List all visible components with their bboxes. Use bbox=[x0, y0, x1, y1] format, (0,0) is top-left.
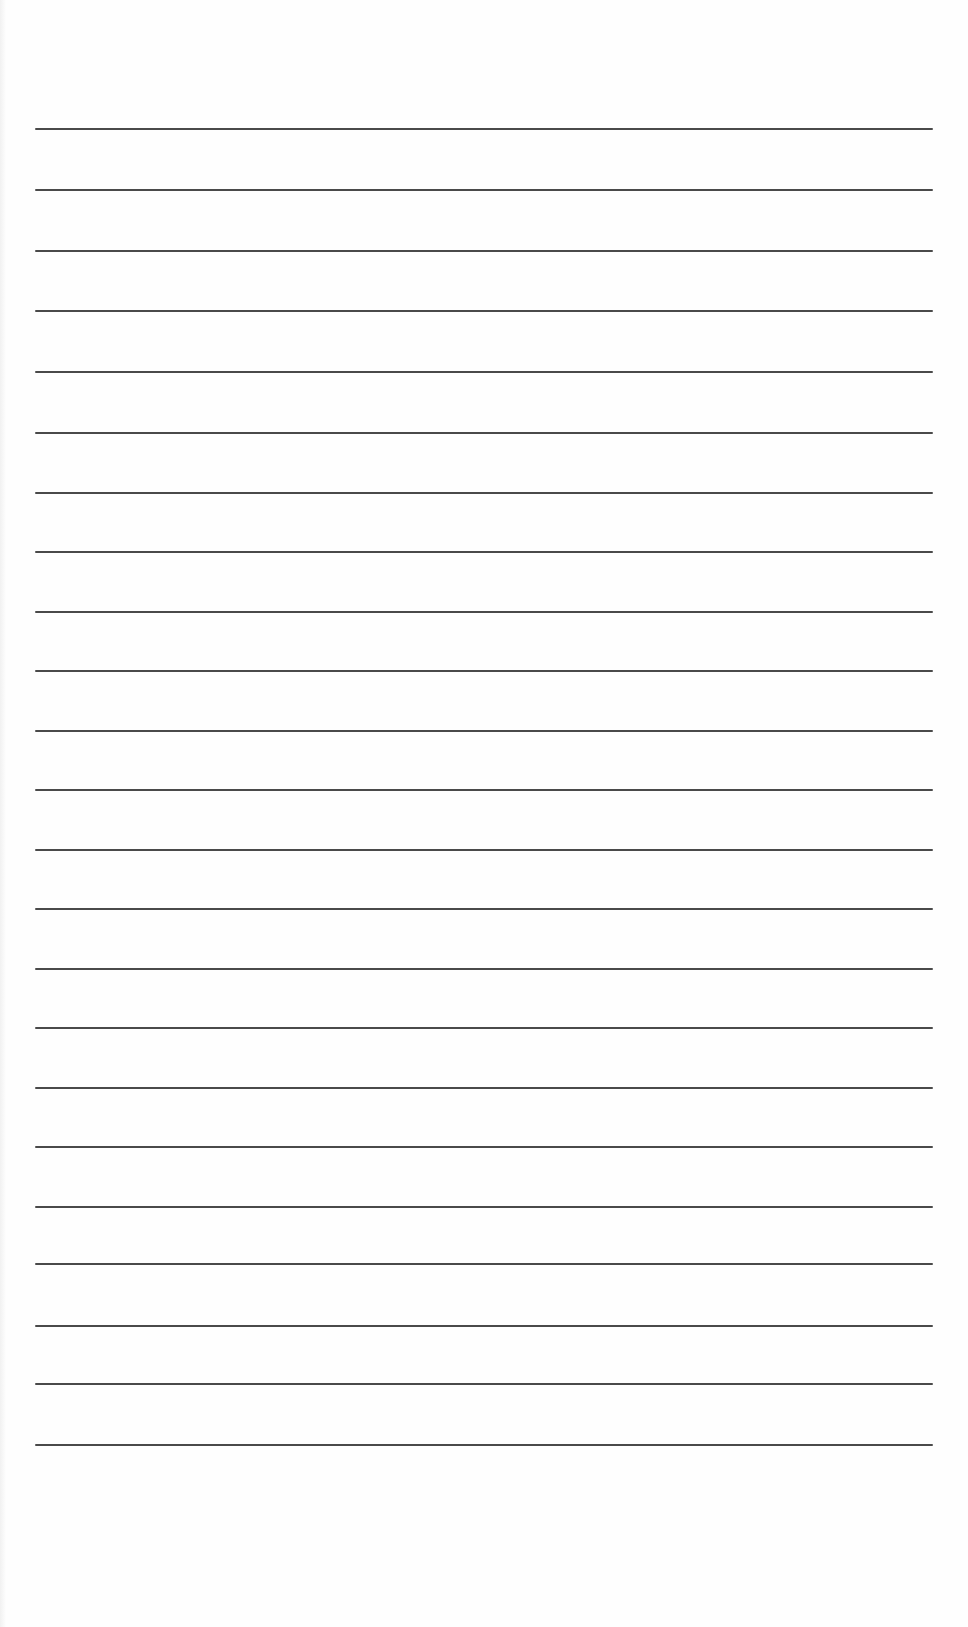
ruled-line bbox=[35, 1027, 933, 1029]
ruled-line bbox=[35, 250, 933, 252]
ruled-line bbox=[35, 968, 933, 970]
ruled-line bbox=[35, 1263, 933, 1265]
ruled-line bbox=[35, 1325, 933, 1327]
ruled-line bbox=[35, 128, 933, 130]
ruled-line bbox=[35, 310, 933, 312]
lined-paper-page bbox=[0, 0, 968, 1627]
ruled-line bbox=[35, 611, 933, 613]
ruled-line bbox=[35, 789, 933, 791]
ruled-line bbox=[35, 1087, 933, 1089]
ruled-line bbox=[35, 908, 933, 910]
ruled-line bbox=[35, 1383, 933, 1385]
ruled-line bbox=[35, 551, 933, 553]
ruled-line bbox=[35, 1206, 933, 1208]
page-edge-shadow bbox=[0, 0, 6, 1627]
ruled-line bbox=[35, 371, 933, 373]
ruled-line bbox=[35, 670, 933, 672]
ruled-line bbox=[35, 492, 933, 494]
ruled-line bbox=[35, 849, 933, 851]
ruled-line bbox=[35, 1444, 933, 1446]
ruled-line bbox=[35, 730, 933, 732]
ruled-line bbox=[35, 432, 933, 434]
ruled-line bbox=[35, 1146, 933, 1148]
ruled-line bbox=[35, 189, 933, 191]
